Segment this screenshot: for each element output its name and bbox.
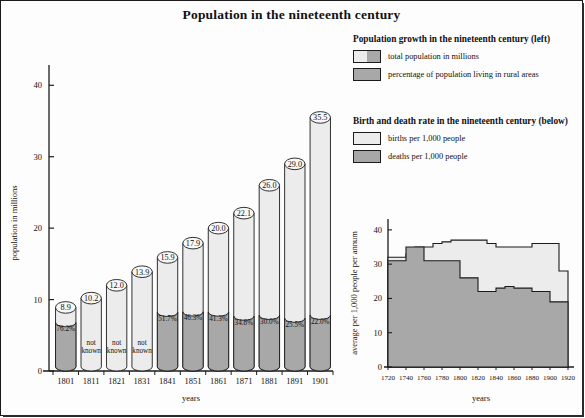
population-value-label: 13.9 <box>135 268 149 277</box>
birth-death-rate-chart: 010203040 172017401760178018001820184018… <box>346 209 581 414</box>
area-y-tick-label: 0 <box>378 362 382 372</box>
area-series-group <box>388 240 568 367</box>
bar-cylinder: 46.3%17.9 <box>183 237 203 371</box>
population-value-label: 22.1 <box>237 209 251 218</box>
x-tick-label: 1811 <box>83 376 100 386</box>
y-tick-label: 0 <box>38 366 42 376</box>
bar-cylinder: 30.0%26.0 <box>259 179 279 371</box>
area-x-tick-group: 1720174017601780180018201840186018801900… <box>381 367 576 382</box>
y-tick-group: 010203040 <box>34 80 55 376</box>
bar-cylinder: 51.7%15.9 <box>157 252 177 371</box>
x-tick-label: 1841 <box>159 376 176 386</box>
bar-cylinder: notknown13.9 <box>132 266 152 371</box>
x-axis-title: years <box>182 393 200 403</box>
bar-cylinder: 22.0%35.5 <box>310 112 330 371</box>
area-x-tick-label: 1800 <box>453 374 468 382</box>
area-x-tick-label: 1780 <box>435 374 450 382</box>
page-title: Population in the nineteenth century <box>1 7 582 23</box>
legend-label-deaths: deaths per 1,000 people <box>388 152 468 161</box>
figure-frame: Population in the nineteenth century 010… <box>0 0 583 416</box>
area-y-tick-label: 20 <box>374 293 383 303</box>
area-y-tick-label: 10 <box>374 328 383 338</box>
legend-item-births: births per 1,000 people <box>353 132 581 145</box>
y-tick-label: 10 <box>34 295 43 305</box>
area-x-tick-label: 1880 <box>525 374 540 382</box>
legend-population-heading: Population growth in the nineteenth cent… <box>353 34 581 45</box>
bar-cylinder: 76.2%8.9 <box>56 302 76 371</box>
area-x-tick-label: 1900 <box>543 374 558 382</box>
y-axis-title: population in millions <box>9 185 19 260</box>
y-tick-label: 40 <box>34 80 43 90</box>
rural-percentage-label: 76.2% <box>56 325 75 333</box>
x-tick-group: 1801181118211831184118511861187118811891… <box>53 371 333 386</box>
area-x-tick-label: 1840 <box>489 374 504 382</box>
x-tick-label: 1821 <box>108 376 125 386</box>
rural-percentage-label: 51.7% <box>158 315 177 323</box>
area-x-tick-label: 1760 <box>417 374 432 382</box>
x-tick-label: 1831 <box>134 376 151 386</box>
legend-item-deaths: deaths per 1,000 people <box>353 150 581 163</box>
swatch-deaths-icon <box>353 150 381 163</box>
bar-cylinder: 25.5%29.0 <box>285 158 305 371</box>
population-value-label: 15.9 <box>160 253 174 262</box>
x-tick-label: 1881 <box>261 376 278 386</box>
population-growth-chart: 010203040 76.2%8.9notknown10.2notknown12… <box>3 53 348 413</box>
x-tick-label: 1871 <box>235 376 252 386</box>
legend-birth-death-rate: Birth and death rate in the nineteenth c… <box>353 116 581 168</box>
population-value-label: 35.5 <box>313 113 327 122</box>
legend-population-growth: Population growth in the nineteenth cent… <box>353 34 581 86</box>
population-value-label: 8.9 <box>61 303 71 312</box>
not-known-label: known <box>132 347 152 355</box>
not-known-label: not <box>137 339 146 347</box>
area-y-tick-label: 30 <box>374 259 383 269</box>
bar-cylinder: notknown10.2 <box>81 292 101 371</box>
x-tick-label: 1861 <box>210 376 227 386</box>
population-value-label: 10.2 <box>84 294 98 303</box>
legend-item-total-population: total population in millions <box>353 50 581 63</box>
population-value-label: 20.0 <box>211 224 225 233</box>
legend-label-total-population: total population in millions <box>388 52 479 61</box>
not-known-label: known <box>81 347 101 355</box>
not-known-label: not <box>112 339 121 347</box>
y-tick-label: 30 <box>34 152 43 162</box>
not-known-label: known <box>107 347 127 355</box>
area-y-axis-title: average per 1,000 people per annum <box>349 231 359 355</box>
x-tick-label: 1851 <box>185 376 202 386</box>
rural-percentage-label: 34.8% <box>235 319 254 327</box>
area-y-tick-label: 40 <box>374 225 383 235</box>
rural-percentage-label: 41.3% <box>209 315 228 323</box>
bar-cylinder: notknown12.0 <box>106 279 126 371</box>
x-tick-label: 1901 <box>312 376 329 386</box>
rural-percentage-label: 22.0% <box>311 318 330 326</box>
bar-cylinder: 41.3%20.0 <box>208 222 228 371</box>
legend-label-births: births per 1,000 people <box>388 134 465 143</box>
area-x-axis-title: years <box>472 393 490 403</box>
swatch-births-icon <box>353 132 381 145</box>
area-x-tick-label: 1920 <box>561 374 576 382</box>
area-x-tick-label: 1720 <box>381 374 396 382</box>
area-x-tick-label: 1740 <box>399 374 414 382</box>
not-known-label: not <box>87 339 96 347</box>
bar-group: 76.2%8.9notknown10.2notknown12.0notknown… <box>56 112 331 371</box>
bar-cylinder: 34.8%22.1 <box>234 207 254 371</box>
population-value-label: 12.0 <box>109 281 123 290</box>
rural-percentage-label: 25.5% <box>286 321 305 329</box>
y-tick-label: 20 <box>34 223 43 233</box>
population-value-label: 26.0 <box>262 181 276 190</box>
legend-label-rural-percentage: percentage of population living in rural… <box>388 70 539 79</box>
legend-item-rural-percentage: percentage of population living in rural… <box>353 68 581 81</box>
x-tick-label: 1891 <box>286 376 303 386</box>
population-value-label: 29.0 <box>288 160 302 169</box>
swatch-rural-percentage-icon <box>353 68 381 81</box>
rural-percentage-label: 30.0% <box>260 318 279 326</box>
rural-percentage-label: 46.3% <box>184 314 203 322</box>
area-x-tick-label: 1860 <box>507 374 522 382</box>
swatch-total-population-icon <box>353 50 381 63</box>
population-value-label: 17.9 <box>186 239 200 248</box>
x-tick-label: 1801 <box>57 376 74 386</box>
legend-rates-heading: Birth and death rate in the nineteenth c… <box>353 116 581 127</box>
area-x-tick-label: 1820 <box>471 374 486 382</box>
